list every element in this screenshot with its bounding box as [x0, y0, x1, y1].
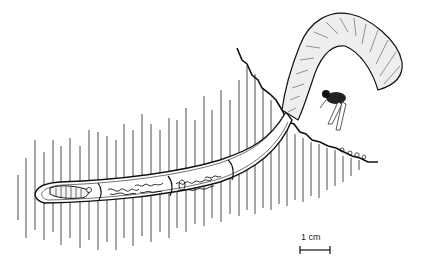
wasp	[320, 90, 346, 130]
soil-pellets	[340, 148, 366, 159]
burrow-illustration	[0, 0, 423, 270]
scale-bar	[300, 246, 330, 254]
scale-bar-label: 1 cm	[301, 232, 321, 242]
